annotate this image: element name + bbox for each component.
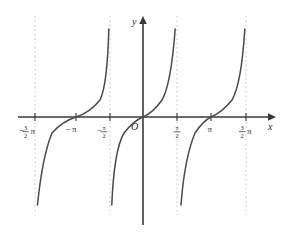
tick-label-pi: π [72, 124, 77, 134]
tick-label-pi: π [247, 126, 252, 136]
graph-canvas: x y O − 3 2 π − π − π 2 π 2 [0, 0, 288, 232]
tick-label-pi: π [31, 126, 36, 136]
tick-label-sign: − [66, 124, 71, 134]
tick-label-pi: π [208, 124, 213, 134]
tick-label-numerator: 3 [240, 124, 243, 131]
tangent-function-graph: x y O − 3 2 π − π − π 2 π 2 [0, 0, 288, 232]
tick-label-pi: π [208, 124, 213, 134]
tick-label-sign: − [97, 125, 102, 135]
tick-label-denominator: 2 [175, 132, 178, 139]
origin-label: O [131, 121, 138, 132]
x-axis-label: x [267, 121, 273, 132]
tick-label-neg-pi: − π [66, 124, 78, 134]
y-axis-label: y [131, 16, 137, 27]
tick-label-denominator: 2 [24, 132, 27, 139]
tick-label-denominator: 2 [102, 132, 105, 139]
tick-label-denominator: 2 [240, 132, 243, 139]
tick-label-numerator: 3 [24, 124, 27, 131]
